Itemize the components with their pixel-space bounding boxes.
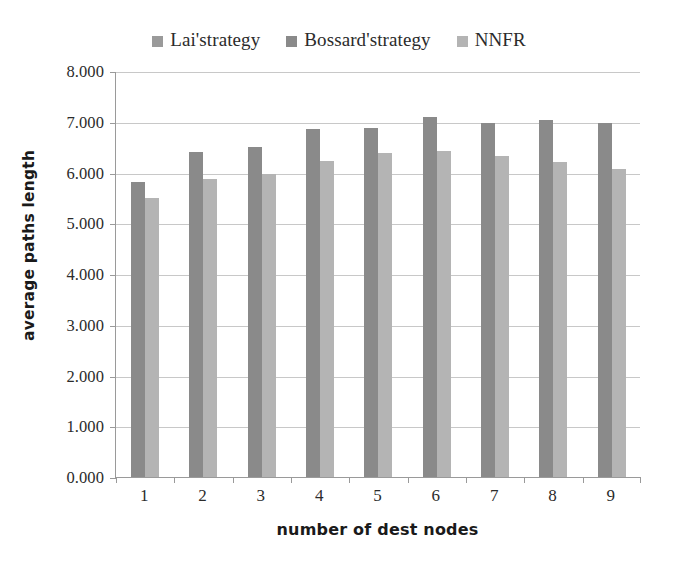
bar-group-9: [583, 72, 641, 477]
y-tick-7: [110, 123, 116, 124]
bar-group-3: [233, 72, 291, 477]
bars-layer: [116, 72, 640, 477]
x-tick-4: [349, 477, 350, 483]
bar-group-5: [349, 72, 407, 477]
y-axis-tick-labels: 0.0001.0002.0003.0004.0005.0006.0007.000…: [46, 72, 104, 478]
x-tick-0: [116, 477, 117, 483]
bar-1-6[interactable]: [423, 117, 437, 477]
x-tick-2: [233, 477, 234, 483]
bar-group-8: [524, 72, 582, 477]
x-tick-label-2: 2: [198, 486, 207, 506]
bar-2-4[interactable]: [320, 161, 334, 477]
y-tick-label-0: 0.000: [66, 468, 104, 488]
x-tick-label-1: 1: [140, 486, 149, 506]
bar-1-3[interactable]: [248, 147, 262, 477]
bar-chart: Lai'strategyBossard'strategyNNFR average…: [0, 0, 678, 585]
x-tick-6: [466, 477, 467, 483]
x-tick-1: [174, 477, 175, 483]
bar-1-7[interactable]: [481, 123, 495, 477]
x-tick-label-3: 3: [257, 486, 266, 506]
y-tick-6: [110, 174, 116, 175]
bar-group-2: [174, 72, 232, 477]
x-axis-tick-labels: 123456789: [115, 486, 640, 512]
x-tick-label-8: 8: [548, 486, 557, 506]
x-tick-3: [291, 477, 292, 483]
x-tick-label-5: 5: [373, 486, 382, 506]
y-tick-label-8: 8.000: [66, 62, 104, 82]
x-tick-label-6: 6: [432, 486, 441, 506]
bar-1-8[interactable]: [539, 120, 553, 477]
x-tick-end: [640, 477, 641, 483]
bar-2-9[interactable]: [612, 169, 626, 477]
y-tick-5: [110, 224, 116, 225]
bar-2-5[interactable]: [378, 153, 392, 477]
bar-2-7[interactable]: [495, 156, 509, 477]
y-tick-label-4: 4.000: [66, 265, 104, 285]
x-axis-title: number of dest nodes: [115, 520, 640, 539]
y-tick-label-6: 6.000: [66, 164, 104, 184]
x-tick-label-4: 4: [315, 486, 324, 506]
bar-group-7: [466, 72, 524, 477]
bar-2-1[interactable]: [145, 198, 159, 477]
y-axis-title: average paths length: [14, 130, 44, 360]
x-tick-label-9: 9: [607, 486, 616, 506]
y-tick-1: [110, 427, 116, 428]
bar-group-1: [116, 72, 174, 477]
y-tick-label-2: 2.000: [66, 367, 104, 387]
x-tick-5: [408, 477, 409, 483]
bar-2-3[interactable]: [262, 174, 276, 477]
bar-group-4: [291, 72, 349, 477]
bar-2-2[interactable]: [203, 179, 217, 477]
x-tick-label-7: 7: [490, 486, 499, 506]
y-tick-label-3: 3.000: [66, 316, 104, 336]
bar-1-5[interactable]: [364, 128, 378, 477]
bar-1-2[interactable]: [189, 152, 203, 477]
plot-wrapper: average paths length 0.0001.0002.0003.00…: [0, 0, 678, 585]
x-tick-8: [583, 477, 584, 483]
y-tick-label-1: 1.000: [66, 417, 104, 437]
y-tick-2: [110, 377, 116, 378]
y-tick-8: [110, 72, 116, 73]
bar-1-1[interactable]: [131, 182, 145, 477]
plot-area: [115, 72, 640, 478]
y-tick-label-7: 7.000: [66, 113, 104, 133]
y-tick-3: [110, 326, 116, 327]
bar-1-4[interactable]: [306, 129, 320, 477]
y-tick-4: [110, 275, 116, 276]
bar-1-9[interactable]: [598, 123, 612, 477]
bar-group-6: [408, 72, 466, 477]
y-tick-label-5: 5.000: [66, 214, 104, 234]
bar-2-8[interactable]: [553, 162, 567, 477]
bar-2-6[interactable]: [437, 151, 451, 477]
x-tick-7: [524, 477, 525, 483]
